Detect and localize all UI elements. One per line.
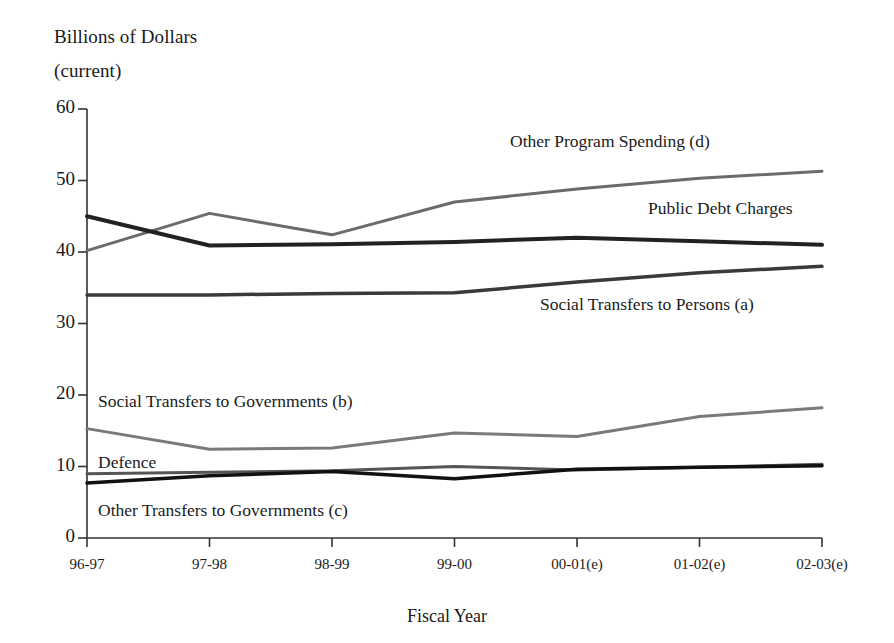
x-tick-label: 97-98 xyxy=(150,556,270,573)
line-chart: Billions of Dollars (current) 0102030405… xyxy=(0,0,894,643)
x-axis-title: Fiscal Year xyxy=(0,606,894,627)
y-tick-label: 40 xyxy=(20,239,75,261)
series-line xyxy=(87,466,822,483)
plot-area xyxy=(0,0,894,643)
x-tick-label: 99-00 xyxy=(395,556,515,573)
series-label: Defence xyxy=(98,452,156,473)
series-line xyxy=(87,408,822,449)
y-tick-label: 20 xyxy=(20,382,75,404)
series-label: Other Transfers to Governments (c) xyxy=(98,500,348,521)
series-label: Other Program Spending (d) xyxy=(510,131,710,152)
y-tick-label: 50 xyxy=(20,168,75,190)
series-label: Social Transfers to Persons (a) xyxy=(540,294,754,315)
x-tick-label: 02-03(e) xyxy=(762,556,882,573)
y-tick-label: 60 xyxy=(20,96,75,118)
series-label: Public Debt Charges xyxy=(648,198,793,219)
x-tick-label: 96-97 xyxy=(27,556,147,573)
y-tick-label: 30 xyxy=(20,311,75,333)
y-tick-label: 10 xyxy=(20,454,75,476)
series-line xyxy=(87,216,822,245)
x-tick-label: 00-01(e) xyxy=(517,556,637,573)
x-tick-label: 01-02(e) xyxy=(640,556,760,573)
y-tick-label: 0 xyxy=(20,525,75,547)
series-label: Social Transfers to Governments (b) xyxy=(98,391,353,412)
x-tick-label: 98-99 xyxy=(272,556,392,573)
series-line xyxy=(87,266,822,295)
